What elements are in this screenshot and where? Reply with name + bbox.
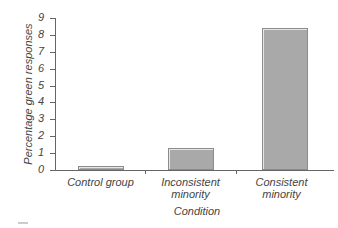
y-tick-label: 6 [30,62,44,74]
x-axis-label: Condition [152,205,242,217]
y-tick-label: 4 [30,95,44,107]
y-tick-label: 1 [30,146,44,158]
y-tick-label: 0 [30,163,44,175]
y-tick-label: 9 [30,11,44,23]
x-category-label: Inconsistentminority [145,176,236,200]
x-category-label: Control group [55,176,146,188]
y-tick-label: 7 [30,45,44,57]
bar [78,166,124,170]
x-tick-mark [145,170,146,174]
x-axis-line [50,170,334,171]
y-axis-line [55,18,56,170]
x-tick-mark [236,170,237,174]
caption-fragment [18,222,28,224]
y-tick-label: 3 [30,112,44,124]
bar [262,28,308,170]
y-tick-label: 2 [30,129,44,141]
x-category-label: Consistentminority [236,176,327,200]
y-tick-label: 5 [30,79,44,91]
bar [168,148,214,170]
y-tick-label: 8 [30,28,44,40]
